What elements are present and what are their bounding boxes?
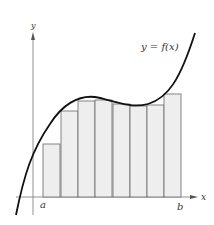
x-axis-arrow-icon bbox=[190, 195, 198, 199]
riemann-rectangle bbox=[78, 101, 95, 197]
riemann-rectangle bbox=[147, 105, 164, 197]
riemann-rectangles bbox=[43, 94, 181, 197]
riemann-rectangle bbox=[43, 144, 60, 197]
y-axis-arrow-icon bbox=[31, 32, 35, 40]
function-label: y = f(x) bbox=[140, 41, 179, 52]
x-axis-label: x bbox=[201, 192, 206, 202]
riemann-rectangle bbox=[113, 104, 130, 197]
riemann-sum-figure: y x y = f(x) a b bbox=[0, 0, 214, 225]
riemann-rectangle bbox=[95, 100, 112, 197]
interval-start-label: a bbox=[40, 199, 46, 210]
interval-end-label: b bbox=[177, 201, 183, 212]
riemann-rectangle bbox=[164, 94, 181, 197]
y-axis-label: y bbox=[30, 21, 36, 30]
riemann-rectangle bbox=[130, 106, 147, 197]
riemann-rectangle bbox=[61, 111, 78, 197]
